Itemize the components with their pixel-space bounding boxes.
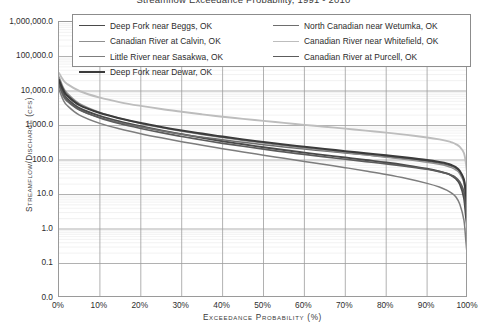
legend-item[interactable]: Canadian River at Calvin, OK — [79, 34, 275, 50]
legend-line-swatch — [79, 41, 105, 42]
series-line — [59, 90, 467, 265]
legend-item[interactable]: Canadian River at Purcell, OK — [273, 49, 469, 65]
legend-label: Little River near Sasakwa, OK — [110, 53, 223, 61]
x-tick-label: 80% — [365, 300, 405, 310]
legend-label: Deep Fork near Dewar, OK — [110, 68, 212, 76]
x-tick-label: 60% — [283, 300, 323, 310]
x-tick-label: 20% — [120, 300, 160, 310]
legend-item[interactable]: Deep Fork near Beggs, OK — [79, 18, 275, 34]
legend-label: Deep Fork near Beggs, OK — [110, 22, 212, 30]
series-line — [59, 84, 467, 229]
legend-line-swatch — [273, 56, 299, 57]
legend-item[interactable]: Deep Fork near Dewar, OK — [79, 65, 275, 81]
x-tick-label: 90% — [406, 300, 446, 310]
x-tick-label: 50% — [243, 300, 283, 310]
series-group — [59, 73, 467, 264]
chart-title: Streamflow Exceedance Probability, 1991 … — [0, 0, 487, 5]
x-tick-label: 30% — [161, 300, 201, 310]
legend-label: Canadian River at Purcell, OK — [304, 53, 417, 61]
legend-column-left: Deep Fork near Beggs, OKCanadian River a… — [79, 18, 275, 80]
legend-line-swatch — [79, 71, 105, 73]
y-axis-title: Streamflow/Discharge (cfs) — [25, 30, 34, 280]
legend-label: Canadian River near Whitefield, OK — [304, 37, 438, 45]
legend-line-swatch — [79, 56, 105, 57]
x-tick-label: 100% — [447, 300, 487, 310]
x-tick-label: 0% — [38, 300, 78, 310]
legend-column-right: North Canadian near Wetumka, OKCanadian … — [273, 18, 469, 65]
x-tick-label: 40% — [202, 300, 242, 310]
y-tick-label: 1,000,000.0 — [0, 16, 53, 26]
legend-item[interactable]: Little River near Sasakwa, OK — [79, 49, 275, 65]
x-tick-label: 10% — [79, 300, 119, 310]
x-axis-title: Exceedance Probability (%) — [58, 313, 467, 322]
legend-label: North Canadian near Wetumka, OK — [304, 22, 438, 30]
x-tick-label: 70% — [324, 300, 364, 310]
legend-item[interactable]: North Canadian near Wetumka, OK — [273, 18, 469, 34]
legend-item[interactable]: Canadian River near Whitefield, OK — [273, 34, 469, 50]
legend-line-swatch — [273, 41, 299, 42]
legend-line-swatch — [273, 25, 299, 26]
legend-line-swatch — [79, 25, 105, 26]
legend: Deep Fork near Beggs, OKCanadian River a… — [72, 14, 471, 67]
chart-root: Streamflow Exceedance Probability, 1991 … — [0, 0, 487, 330]
legend-label: Canadian River at Calvin, OK — [110, 37, 221, 45]
